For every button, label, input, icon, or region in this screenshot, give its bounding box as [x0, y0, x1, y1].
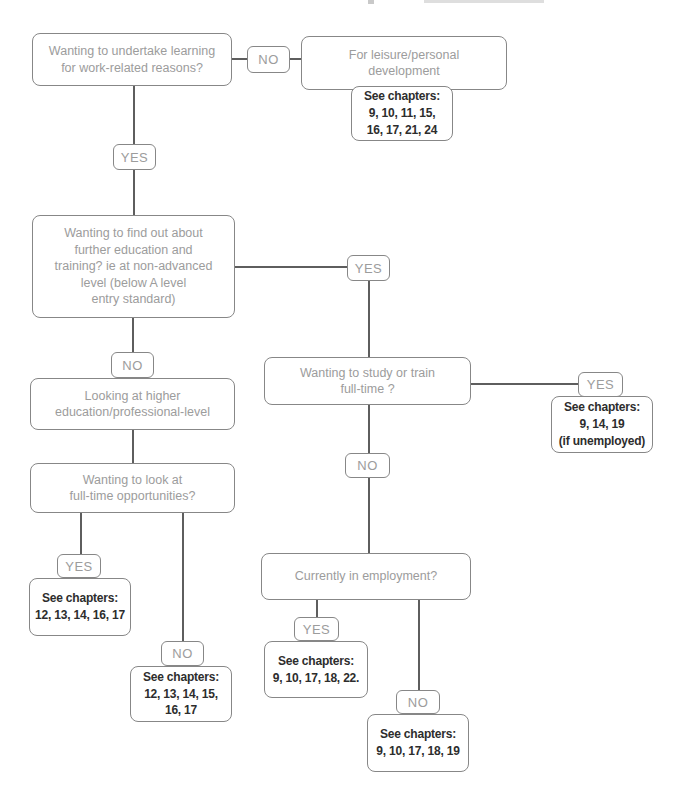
decision-label: NO	[354, 456, 381, 475]
decision-label: YES	[352, 259, 386, 278]
decision-no-employment: NO	[396, 690, 440, 714]
chapters-fulltime-no: See chapters: 12, 13, 14, 15, 16, 17	[130, 666, 232, 722]
statement-text: Looking at higher education/professional…	[52, 386, 213, 423]
chapters-text: See chapters: 9, 14, 19 (if unemployed)	[556, 397, 648, 451]
chapters-employment-no: See chapters: 9, 10, 17, 18, 19	[367, 714, 469, 772]
decision-yes-employment: YES	[294, 617, 339, 641]
question-text: Wanting to undertake learning for work-r…	[46, 41, 218, 78]
decision-label: YES	[118, 148, 152, 167]
flowchart-page: Wanting to undertake learning for work-r…	[0, 0, 684, 800]
connector-qft-to-yes	[80, 513, 82, 554]
decision-no-fulltime: NO	[161, 641, 204, 666]
connector-q2-to-yes	[235, 266, 347, 268]
question-text: Wanting to study or train full-time ?	[297, 363, 438, 400]
connector-yes-to-q-study	[368, 281, 370, 357]
question-employment: Currently in employment?	[261, 553, 471, 600]
decision-yes-study: YES	[578, 372, 623, 397]
outcome-leisure-development: For leisure/personal development	[301, 36, 507, 90]
decision-label: YES	[584, 375, 618, 394]
chapters-text: See chapters: 12, 13, 14, 16, 17	[32, 588, 128, 626]
outcome-text: For leisure/personal development	[346, 45, 462, 82]
connector-emp-to-no	[418, 600, 420, 690]
connector-qstudy-to-yes	[471, 383, 578, 385]
question-fulltime-opportunities: Wanting to look at full-time opportuniti…	[30, 463, 235, 513]
decision-label: NO	[255, 50, 282, 69]
question-work-related-learning: Wanting to undertake learning for work-r…	[32, 33, 232, 86]
decision-yes-fulltime: YES	[57, 554, 101, 578]
connector-emp-to-yes	[316, 600, 318, 617]
decision-no-further-education: NO	[111, 352, 154, 378]
decision-yes-further-education: YES	[347, 255, 390, 281]
decision-no-top: NO	[247, 46, 290, 73]
question-further-education: Wanting to find out about further educat…	[32, 215, 235, 318]
question-text: Currently in employment?	[292, 566, 440, 587]
connector-q1-to-no	[232, 58, 247, 60]
connector-no-to-leisure	[290, 58, 301, 60]
decision-label: NO	[405, 693, 432, 712]
chapters-leisure: See chapters: 9, 10, 11, 15, 16, 17, 21,…	[351, 86, 453, 141]
decision-label: YES	[300, 620, 334, 639]
question-text: Wanting to look at full-time opportuniti…	[67, 470, 199, 507]
chapters-employment-yes: See chapters: 9, 10, 17, 18, 22.	[264, 641, 368, 698]
decision-label: NO	[169, 644, 196, 663]
question-text: Wanting to find out about further educat…	[52, 223, 216, 310]
decision-no-study: NO	[345, 453, 390, 478]
connector-q1-to-yes	[133, 86, 135, 144]
connector-yes-to-q2	[133, 170, 135, 215]
chapters-text: See chapters: 9, 10, 17, 18, 22.	[270, 651, 362, 689]
statement-higher-education: Looking at higher education/professional…	[30, 378, 235, 430]
chapters-text: See chapters: 9, 10, 17, 18, 19	[373, 724, 462, 762]
connector-qstudy-to-no	[368, 405, 370, 453]
connector-q2-to-no	[132, 318, 134, 352]
chapters-fulltime-yes: See chapters: 12, 13, 14, 16, 17	[29, 578, 131, 636]
decision-label: NO	[119, 356, 146, 375]
cropped-text-artifact	[424, 0, 544, 3]
connector-higher-to-qft	[132, 430, 134, 463]
connector-qft-to-no	[182, 513, 184, 641]
chapters-study-yes: See chapters: 9, 14, 19 (if unemployed)	[551, 396, 653, 453]
connector-no-to-employment	[368, 478, 370, 553]
chapters-text: See chapters: 9, 10, 11, 15, 16, 17, 21,…	[361, 86, 443, 140]
cropped-text-artifact	[368, 0, 374, 4]
decision-yes-top: YES	[113, 144, 156, 170]
question-study-fulltime: Wanting to study or train full-time ?	[264, 357, 471, 405]
chapters-text: See chapters: 12, 13, 14, 15, 16, 17	[140, 667, 222, 721]
decision-label: YES	[62, 557, 96, 576]
